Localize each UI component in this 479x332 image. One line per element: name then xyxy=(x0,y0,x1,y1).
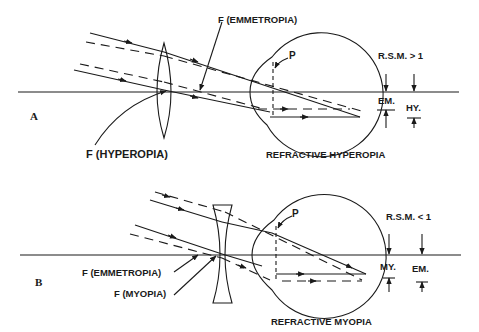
label-f-myopia: F (MYOPIA) xyxy=(114,288,166,299)
label-hy: HY. xyxy=(406,102,421,113)
label-p-a: P xyxy=(289,50,296,61)
panel-letter-a: A xyxy=(30,110,38,122)
label-rsm-a: R.S.M. > 1 xyxy=(378,50,424,61)
label-p-b: P xyxy=(292,208,299,219)
label-em-a: EM. xyxy=(378,95,395,106)
eye-globe-a xyxy=(250,33,383,157)
caption-a: REFRACTIVE HYPEROPIA xyxy=(266,149,385,160)
caption-b: REFRACTIVE MYOPIA xyxy=(271,316,372,327)
eye-globe-b xyxy=(252,194,386,318)
label-rsm-b: R.S.M. < 1 xyxy=(386,211,432,222)
label-f-emmetropia-b: F (EMMETROPIA) xyxy=(82,267,161,278)
label-f-emmetropia-a: F (EMMETROPIA) xyxy=(218,14,297,25)
panel-b-myopia: F (EMMETROPIA) F (MYOPIA) P R.S.M. < 1 M… xyxy=(20,192,461,327)
panel-a-hyperopia: F (EMMETROPIA) F (HYPEROPIA) P R.S.M. > … xyxy=(18,14,459,160)
label-my: MY. xyxy=(380,261,396,272)
refraction-diagram: F (EMMETROPIA) F (HYPEROPIA) P R.S.M. > … xyxy=(0,0,479,332)
label-em-b: EM. xyxy=(412,263,429,274)
label-f-hyperopia: F (HYPEROPIA) xyxy=(86,148,168,160)
panel-letter-b: B xyxy=(35,276,43,288)
